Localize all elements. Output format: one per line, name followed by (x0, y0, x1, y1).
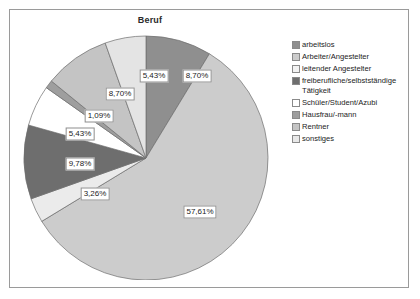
legend-item-label: leitender Angestelter (302, 64, 371, 74)
legend-swatch-icon (292, 135, 300, 143)
pie-slice-label: 8,70% (106, 88, 135, 101)
legend-swatch-icon (292, 41, 300, 49)
legend-item-label: Schüler/Student/Azubi (302, 98, 377, 108)
chart-title: Beruf (10, 15, 290, 25)
pie-slice-label: 9,78% (66, 158, 95, 171)
pie-svg (22, 28, 278, 280)
pie-slice-label: 5,43% (140, 70, 169, 83)
legend-item-label: arbeitslos (302, 40, 335, 50)
legend-item[interactable]: leitender Angestelter (292, 64, 402, 74)
pie-slice-label: 8,70% (183, 70, 212, 83)
legend-item-label: Rentner (302, 122, 329, 132)
legend-swatch-icon (292, 111, 300, 119)
legend-item[interactable]: Rentner (292, 122, 402, 132)
legend-item[interactable]: arbeitslos (292, 40, 402, 50)
legend-item-label: sonstiges (302, 134, 334, 144)
pie-slice-label: 1,09% (85, 110, 114, 123)
legend-item-label: Arbeiter/Angestelter (302, 52, 369, 62)
legend-swatch-icon (292, 53, 300, 61)
legend-swatch-icon (292, 77, 300, 85)
legend-item[interactable]: Hausfrau/-mann (292, 110, 402, 120)
legend-item[interactable]: sonstiges (292, 134, 402, 144)
legend: arbeitslosArbeiter/Angestelterleitender … (287, 32, 405, 154)
legend-item-label: freiberufliche/selbstständige Tätigkeit (302, 76, 402, 95)
legend-item[interactable]: Arbeiter/Angestelter (292, 52, 402, 62)
legend-item[interactable]: Schüler/Student/Azubi (292, 98, 402, 108)
legend-item-label: Hausfrau/-mann (302, 110, 356, 120)
legend-swatch-icon (292, 123, 300, 131)
chart-frame: Beruf 8,70%57,61%3,26%9,78%5,43%1,09%8,7… (9, 9, 409, 288)
legend-swatch-icon (292, 99, 300, 107)
pie-chart: 8,70%57,61%3,26%9,78%5,43%1,09%8,70%5,43… (22, 28, 278, 280)
pie-slice-label: 5,43% (66, 128, 95, 141)
pie-slice-label: 3,26% (81, 188, 110, 201)
pie-slice-label: 57,61% (183, 206, 216, 219)
legend-item[interactable]: freiberufliche/selbstständige Tätigkeit (292, 76, 402, 95)
legend-swatch-icon (292, 65, 300, 73)
